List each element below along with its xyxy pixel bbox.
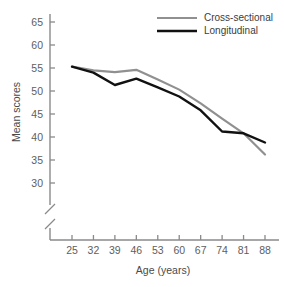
x-axis-tick-label: 25	[66, 244, 78, 256]
x-axis-title: Age (years)	[136, 264, 190, 276]
legend-label-0: Cross-sectional	[204, 12, 273, 23]
y-axis-tick-label: 45	[31, 108, 43, 120]
x-axis-tick-label: 88	[259, 244, 271, 256]
y-axis-tick-label: 35	[31, 154, 43, 166]
x-axis-tick-label: 67	[195, 244, 207, 256]
y-axis-tick-label: 50	[31, 85, 43, 97]
x-axis-tick-label: 46	[130, 244, 142, 256]
x-axis-tick-label: 39	[109, 244, 121, 256]
y-axis-title: Mean scores	[10, 82, 22, 142]
y-axis-tick-label: 65	[31, 16, 43, 28]
line-chart: 3035404550556065 25323946536067748188 Cr…	[0, 0, 284, 287]
y-axis-tick-label: 55	[31, 62, 43, 74]
y-axis-tick-label: 40	[31, 131, 43, 143]
y-axis-tick-label: 60	[31, 39, 43, 51]
axis-break-slash	[45, 204, 55, 214]
x-axis-tick-label: 74	[216, 244, 228, 256]
x-axis-tick-label: 53	[152, 244, 164, 256]
x-axis-tick-label: 60	[173, 244, 185, 256]
x-axis: 25323946536067748188	[50, 235, 279, 256]
series-line-longitudinal	[72, 67, 265, 143]
legend-label-1: Longitudinal	[204, 25, 258, 36]
series-line-cross-sectional	[72, 67, 265, 155]
y-axis: 3035404550556065	[31, 14, 55, 240]
chart-legend: Cross-sectionalLongitudinal	[157, 12, 273, 36]
series-lines	[72, 67, 265, 155]
x-axis-tick-label: 81	[238, 244, 250, 256]
chart-container: 3035404550556065 25323946536067748188 Cr…	[0, 0, 284, 287]
axis-break-slash	[45, 219, 55, 229]
y-axis-tick-label: 30	[31, 177, 43, 189]
x-axis-tick-label: 32	[88, 244, 100, 256]
